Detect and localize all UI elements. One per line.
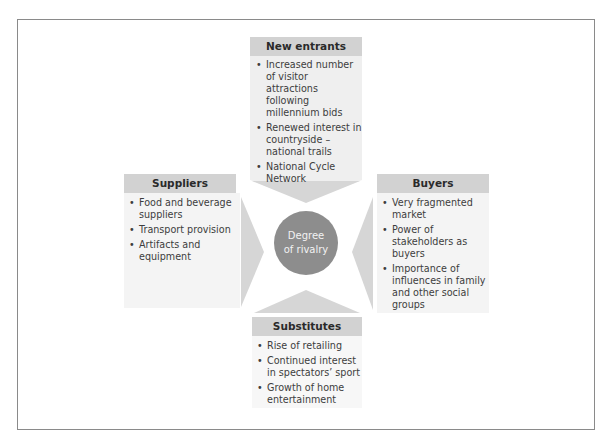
list-item: Transport provision (129, 224, 239, 236)
list-item: Continued interest in spectators’ sport (257, 355, 363, 379)
list-item: Importance of influences in family and o… (382, 263, 488, 311)
buyers-arrowhead (352, 197, 373, 310)
degree-of-rivalry-hub: Degree of rivalry (274, 211, 338, 275)
list-item: Very fragmented market (382, 197, 488, 221)
new-entrants-list: Increased number of visitor attractions … (256, 59, 362, 188)
buyers-list: Very fragmented market Power of stakehol… (382, 197, 488, 314)
list-item: Increased number of visitor attractions … (256, 59, 362, 119)
substitutes-arrowhead (254, 290, 360, 313)
list-item: Power of stakeholders as buyers (382, 224, 488, 260)
suppliers-header: Suppliers (124, 174, 236, 193)
list-item: Food and beverage suppliers (129, 197, 239, 221)
list-item: Rise of retailing (257, 340, 363, 352)
new-entrants-header: New entrants (250, 37, 362, 56)
list-item: Growth of home entertainment (257, 382, 363, 406)
list-item: Artifacts and equipment (129, 239, 239, 263)
suppliers-list: Food and beverage suppliers Transport pr… (129, 197, 239, 266)
hub-label-line2: of rivalry (284, 243, 329, 257)
hub-label-line1: Degree (284, 229, 329, 243)
list-item: Renewed interest in countryside – nation… (256, 122, 362, 158)
substitutes-list: Rise of retailing Continued interest in … (257, 340, 363, 409)
substitutes-header: Substitutes (252, 317, 362, 336)
buyers-header: Buyers (377, 174, 489, 193)
list-item: National Cycle Network (256, 161, 362, 185)
suppliers-arrowhead (241, 197, 264, 307)
